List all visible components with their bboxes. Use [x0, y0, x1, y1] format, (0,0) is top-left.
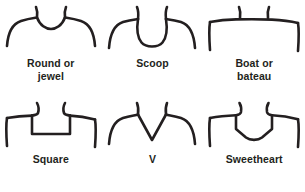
neckline-label: Square: [33, 153, 69, 166]
round-neckline-icon: [3, 2, 99, 54]
neckline-label: Round or jewel: [27, 57, 74, 82]
neckline-item-round-or-jewel: Round or jewel: [0, 0, 102, 96]
v-neckline-icon: [104, 98, 200, 150]
boat-neckline-icon: [206, 2, 302, 54]
neckline-item-square: Square: [0, 96, 102, 192]
neckline-label: V: [149, 153, 156, 166]
square-neckline-icon: [3, 98, 99, 150]
neckline-label: Sweetheart: [226, 153, 283, 166]
neckline-item-sweetheart: Sweetheart: [203, 96, 305, 192]
neckline-label: Boat or bateau: [235, 57, 272, 82]
neckline-item-v: V: [102, 96, 204, 192]
scoop-neckline-icon: [104, 2, 200, 54]
neckline-item-boat-or-bateau: Boat or bateau: [203, 0, 305, 96]
neckline-label: Scoop: [136, 57, 169, 70]
neckline-shapes-diagram: Round or jewel Scoop Boat or bateau: [0, 0, 305, 192]
sweetheart-neckline-icon: [206, 98, 302, 150]
neckline-item-scoop: Scoop: [102, 0, 204, 96]
